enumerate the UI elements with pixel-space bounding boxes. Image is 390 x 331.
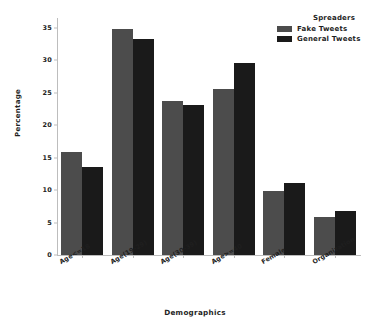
x-axis-tick-mark [234, 255, 235, 258]
bar-group [112, 18, 154, 255]
bar-fake-tweets [162, 101, 183, 255]
bar-fake-tweets [213, 89, 234, 255]
legend-label-fake-tweets: Fake Tweets [297, 25, 347, 33]
bar-general-tweets [234, 63, 255, 255]
bar-group [213, 18, 255, 255]
bar-group [314, 18, 356, 255]
bar-general-tweets [183, 105, 204, 255]
y-axis-tick-mark [54, 255, 57, 256]
y-axis-title: Percentage [14, 89, 22, 137]
legend-label-general-tweets: General Tweets [297, 35, 361, 43]
legend-swatch-general-tweets [277, 36, 292, 42]
x-axis-tick-mark [335, 255, 336, 258]
bar-general-tweets [284, 183, 305, 255]
plot-area: 05101520253035 [57, 18, 360, 255]
x-axis-tick-mark [284, 255, 285, 258]
y-axis-tick-mark [54, 157, 57, 158]
legend-item-general-tweets: General Tweets [277, 34, 385, 44]
legend-swatch-fake-tweets [277, 26, 292, 32]
legend-title: Spreaders [283, 14, 385, 22]
legend-item-fake-tweets: Fake Tweets [277, 24, 385, 34]
x-axis-tick-mark [133, 255, 134, 258]
x-axis-title: Demographics [0, 308, 390, 317]
bar-chart-figure: 05101520253035 Percentage Demographics S… [0, 0, 390, 331]
bar-group [263, 18, 305, 255]
bar-group [61, 18, 103, 255]
y-axis-tick-mark [54, 190, 57, 191]
bar-fake-tweets [112, 29, 133, 255]
bar-general-tweets [133, 39, 154, 255]
y-axis-tick-mark [54, 92, 57, 93]
y-axis-tick-mark [54, 60, 57, 61]
y-axis-tick-mark [54, 125, 57, 126]
y-axis-tick-mark [54, 27, 57, 28]
legend: Spreaders Fake Tweets General Tweets [277, 14, 385, 44]
x-axis-tick-mark [183, 255, 184, 258]
bar-fake-tweets [61, 152, 82, 255]
y-axis-tick-mark [54, 222, 57, 223]
x-axis-tick-mark [82, 255, 83, 258]
bar-group [162, 18, 204, 255]
